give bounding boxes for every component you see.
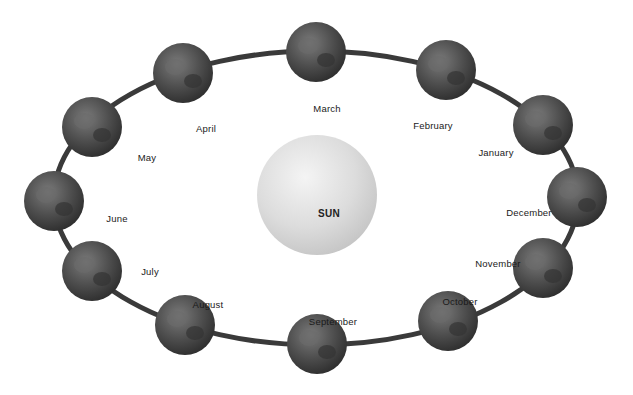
earth-globe-april (153, 43, 213, 103)
earth-globe-december (547, 167, 607, 227)
month-label-february: February (413, 120, 453, 131)
month-label-october: October (442, 296, 477, 307)
earth-globe-january (513, 95, 573, 155)
month-label-january: January (478, 147, 513, 158)
month-label-december: December (506, 207, 551, 218)
month-label-july: July (141, 266, 159, 277)
month-label-may: May (138, 152, 157, 163)
month-label-august: August (193, 299, 224, 310)
earth-globe-july (62, 241, 122, 301)
sun-label: SUN (318, 208, 340, 219)
earth-globe-november (513, 238, 573, 298)
earth-orbit-diagram: JanuaryFebruaryMarchAprilMayJuneJulyAugu… (0, 0, 633, 395)
sun (257, 135, 377, 255)
earth-globe-june (24, 171, 84, 231)
earth-globe-february (416, 40, 476, 100)
earth-globe-march (286, 22, 346, 82)
month-label-september: September (309, 316, 357, 327)
sun-circle (257, 135, 377, 255)
orbit-canvas (0, 0, 633, 395)
month-label-june: June (106, 213, 127, 224)
month-label-november: November (475, 258, 520, 269)
month-label-april: April (196, 123, 216, 134)
earth-globe-may (62, 97, 122, 157)
month-label-march: March (313, 103, 340, 114)
